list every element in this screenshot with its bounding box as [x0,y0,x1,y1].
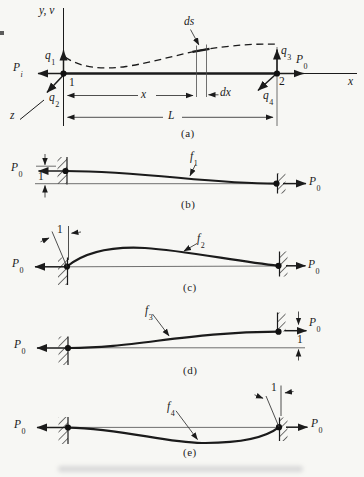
label-P0-e-left: P0 [14,419,25,433]
unit-label-b: 1 [38,171,44,183]
slope-arrow-right-c [72,232,82,233]
label-q4: q4 [263,90,273,104]
dx-label: dx [220,87,231,99]
ds-label: ds [184,16,194,28]
label-P0-a: P0 [296,54,307,68]
label-Pi: Pi [13,62,22,76]
node-2-dot-d [275,329,281,335]
slope-tangent-line-e [266,396,279,427]
left-wall-hatch-c [58,258,68,286]
label-q1: q1 [45,50,55,64]
x-dimension-label: x [141,89,146,101]
left-wall-hatch-e [59,417,69,444]
label-q2: q2 [49,92,59,106]
f2-leader-arrow [184,244,197,252]
label-f2: f2 [197,233,204,247]
slope-arrow-left-e [255,395,264,398]
L-dimension-label: L [168,110,174,122]
caption-b: (b) [181,199,195,210]
ds-leader-arrow [191,30,199,45]
slope-arrow-left-c [41,238,50,242]
ds-element-segment [193,49,210,52]
node-1-dot-e [65,424,71,430]
x-axis-label: x [348,76,353,88]
unit-label-c: 1 [57,224,63,236]
caption-e: (e) [183,447,197,458]
baseline-c [67,266,279,267]
label-f3: f3 [145,305,152,319]
node-2-dot-b [273,181,279,187]
node-1-dot [60,70,66,76]
label-P0-d-right: P0 [309,317,320,331]
node-1-dot-b [62,168,68,174]
node-2-dot-e [276,424,282,430]
label-P0-b-left: P0 [11,162,22,176]
label-P0-b-right: P0 [309,176,320,190]
f4-leader-arrow [176,411,198,440]
f3-leader-arrow [153,314,170,336]
scan-edge-artifact [0,31,4,35]
label-P0-c-right: P0 [308,259,319,273]
node-2-dot-c [275,263,281,269]
z-axis-label: z [10,110,14,122]
label-P0-d-left: P0 [14,339,25,353]
node-1-dot-d [65,345,71,351]
label-P0-e-right: P0 [311,418,322,432]
shape-fn-curve-f4 [68,427,279,443]
shape-fn-curve-f2 [67,248,279,267]
label-q3: q3 [281,45,291,59]
z-axis-line [20,100,44,120]
deflected-shape-dashed-curve [65,44,276,68]
page-bleed-smudge [58,466,303,472]
node-2-label: 2 [279,76,285,88]
shape-fn-curve-f1 [66,171,277,184]
part-c-diagram [35,226,306,285]
caption-d: (d) [183,365,197,376]
caption-c: (c) [183,282,197,293]
label-f4: f4 [167,401,174,415]
label-f1: f1 [190,151,197,165]
figure-linework [0,0,364,477]
unit-label-d: 1 [297,334,303,346]
label-P0-c-left: P0 [12,258,23,272]
part-b-diagram [35,154,306,198]
textbook-figure-beam-element: y, v x z 1 2 q1 q2 q3 q4 Pi P0 ds dx x L… [0,0,364,477]
node-1-label: 1 [69,77,75,89]
slope-arrow-right-e [285,392,294,393]
q2-arrow [47,75,64,93]
shape-fn-curve-f3 [68,332,279,348]
node-1-dot-c [64,263,70,269]
y-axis-label: y, v [39,5,54,17]
part-d-diagram [37,312,307,366]
caption-a: (a) [181,128,195,139]
unit-label-e: 1 [271,382,277,394]
